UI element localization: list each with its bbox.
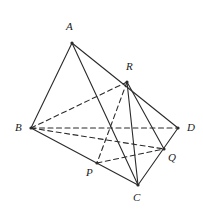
edge-P-Q [97, 149, 164, 163]
vertex-label-r: R [126, 61, 133, 72]
vertex-label-c: C [133, 192, 140, 203]
vertex-label-p: P [86, 167, 93, 178]
vertex-label-d: D [187, 122, 195, 133]
dashed-edge-group [31, 82, 178, 163]
solid-edge-group [31, 43, 178, 185]
edge-A-B [31, 43, 72, 128]
edge-R-C [127, 82, 138, 185]
vertex-dot-b [29, 126, 32, 129]
vertex-dot-a [70, 41, 73, 44]
vertex-label-q: Q [168, 152, 176, 163]
tetrahedron-diagram [0, 0, 203, 211]
vertex-dot-r [125, 80, 128, 83]
vertex-label-b: B [15, 122, 22, 133]
vertex-dot-q [162, 147, 165, 150]
edge-B-R [31, 82, 127, 128]
vertex-dot-d [176, 126, 179, 129]
edge-A-D [72, 43, 178, 128]
vertex-label-a: A [66, 21, 73, 32]
vertex-dot-c [136, 183, 139, 186]
vertex-dot-p [95, 161, 98, 164]
geometry-figure: ABCDPQR [0, 0, 203, 211]
